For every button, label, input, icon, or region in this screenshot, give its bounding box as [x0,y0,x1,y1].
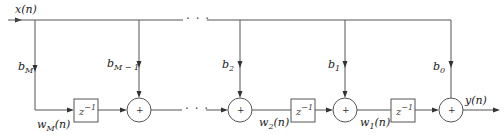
state-w-1: w1(n) [360,116,390,131]
arrow-icon [326,108,333,113]
tap-b-M-1: bM − 1 [107,20,142,98]
output-label: y(n) [464,94,487,107]
svg-text:bM: bM [18,60,34,75]
svg-text:b0: b0 [433,60,445,75]
svg-text:bM − 1: bM − 1 [107,57,139,72]
filter-block-diagram: x(n) · · · bM wM(n) z−1 bM − 1 + · · · b… [0,0,504,135]
arrow-icon [432,108,439,113]
delay-block-2: z−1 [291,99,315,122]
state-w-M: wM(n) [37,118,70,133]
top-ellipsis: · · · [186,12,210,26]
adder-3: + [333,98,357,122]
svg-text:b2: b2 [222,58,234,73]
svg-text:z−1: z−1 [395,103,413,117]
input-label: x(n) [15,3,37,16]
svg-text:z−1: z−1 [295,103,313,117]
tap-b-0: b0 [433,20,454,98]
output-arrow-icon [493,108,500,113]
adder-2: + [228,98,252,122]
svg-text:+: + [136,105,144,115]
svg-text:+: + [342,105,350,115]
svg-text:b1: b1 [328,58,340,73]
delay-block-1: z−1 [74,99,98,122]
svg-text:z−1: z−1 [78,103,96,117]
tap-b-M: bM [18,20,74,113]
adder-output: + [439,98,463,122]
tap-b-1: b1 [328,20,348,98]
adder-1: + [127,98,151,122]
svg-text:+: + [448,105,456,115]
bottom-ellipsis: · · · [185,102,209,116]
svg-text:+: + [237,105,245,115]
delay-block-3: z−1 [391,99,415,122]
arrow-icon [120,108,127,113]
state-w-2: w2(n) [259,116,289,131]
arrow-icon [221,108,228,113]
tap-b-2: b2 [222,20,243,98]
